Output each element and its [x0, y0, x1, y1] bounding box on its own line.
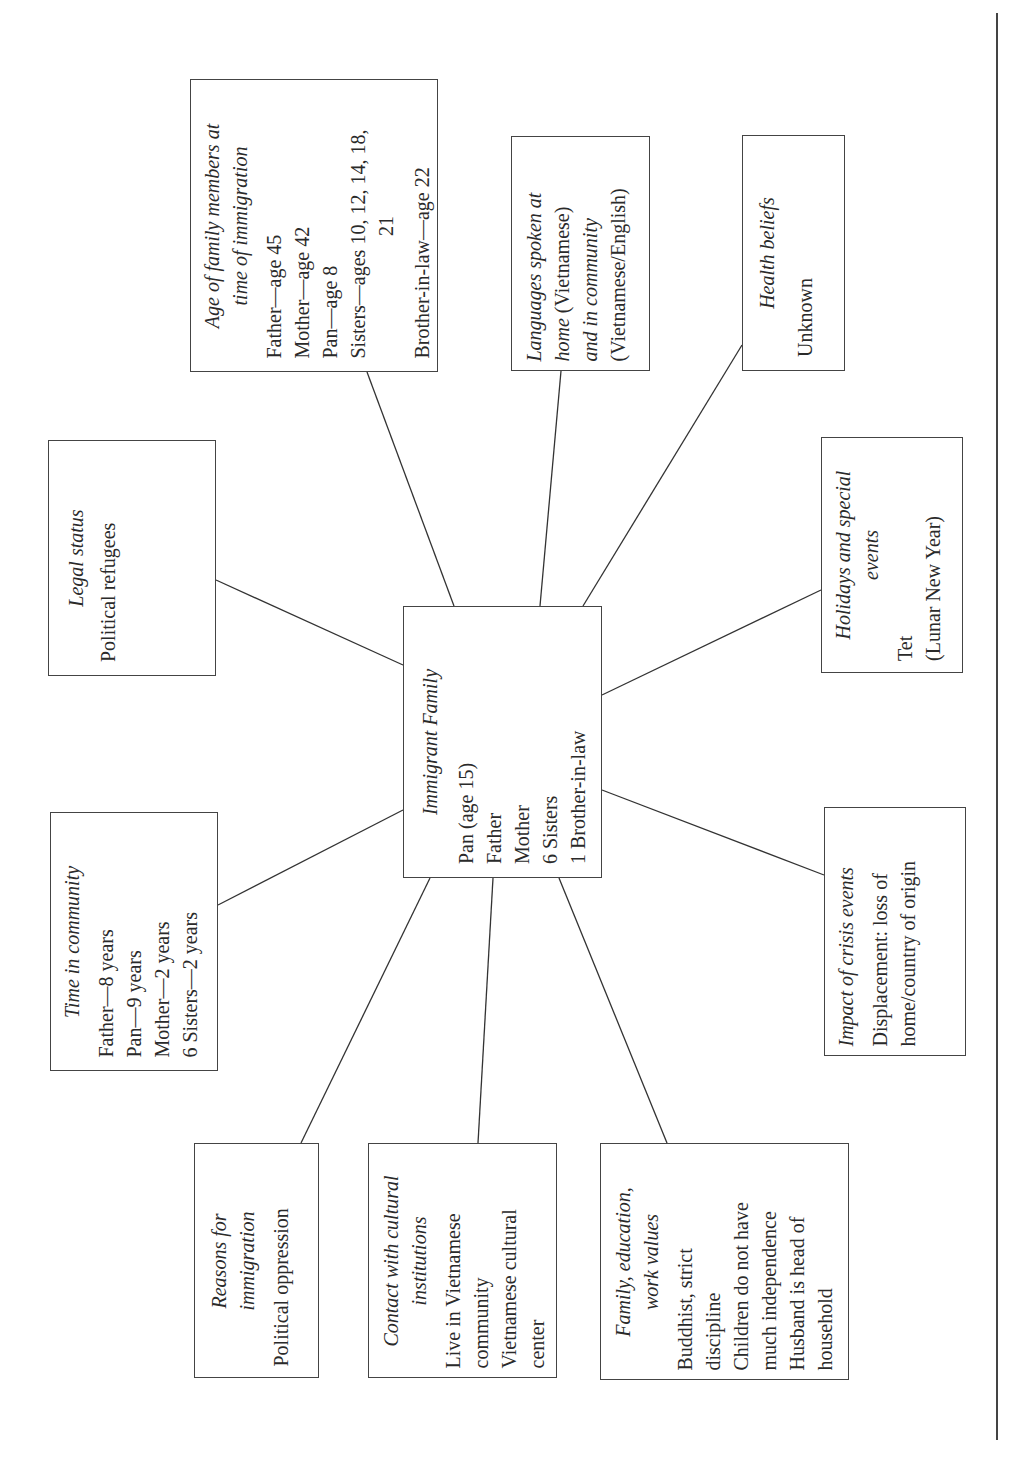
node-line: Husband is head of: [782, 1153, 810, 1370]
node-line: Unknown: [790, 149, 818, 357]
node-line: Father—8 years: [92, 826, 120, 1057]
node-line: home/country of origin: [894, 817, 922, 1046]
node-time-in-community: Time in community Father—8 years Pan—9 y…: [50, 812, 218, 1071]
node-title: Impact of crisis events: [832, 817, 860, 1046]
node-line: Pan—9 years: [120, 826, 148, 1057]
node-title: Holidays and special: [829, 449, 857, 661]
node-line: Buddhist, strict: [670, 1153, 698, 1370]
node-line: discipline: [698, 1153, 726, 1370]
node-title: Family, education,: [608, 1153, 636, 1370]
node-line: Pan—age 8: [316, 93, 344, 358]
center-title: Immigrant Family: [415, 620, 443, 864]
page-edge-rule: [996, 13, 998, 1440]
node-line: (Vietnamese/English): [603, 146, 631, 361]
node-line: 21: [372, 93, 400, 358]
node-title: and in community: [575, 146, 603, 361]
node-family-values: Family, education, work values Buddhist,…: [600, 1143, 849, 1380]
center-line: Mother: [507, 620, 535, 864]
node-title: home: [550, 318, 572, 361]
node-languages: Languages spoken at home (Vietnamese) an…: [511, 136, 650, 371]
node-title: Age of family members at: [198, 93, 226, 358]
center-node-immigrant-family: Immigrant Family Pan (age 15) Father Mot…: [403, 606, 602, 878]
node-health-beliefs: Health beliefs Unknown: [742, 135, 845, 371]
node-line: Children do not have: [726, 1153, 754, 1370]
node-title: Health beliefs: [752, 149, 780, 357]
node-legal-status: Legal status Political refugees: [48, 440, 216, 676]
node-line: Tet: [891, 449, 919, 661]
node-reasons-immigration: Reasons for immigration Political oppres…: [194, 1143, 319, 1378]
node-line: (Lunar New Year): [919, 449, 947, 661]
node-impact-crisis: Impact of crisis events Displacement: lo…: [824, 807, 966, 1056]
node-holidays: Holidays and special events Tet (Lunar N…: [821, 437, 963, 673]
node-title: Contact with cultural: [376, 1153, 404, 1368]
node-line: community: [466, 1153, 494, 1368]
node-title: work values: [636, 1153, 664, 1370]
node-title: institutions: [404, 1153, 432, 1368]
node-age-at-immigration: Age of family members at time of immigra…: [190, 79, 438, 372]
node-line: Mother—2 years: [148, 826, 176, 1057]
center-line: 6 Sisters: [535, 620, 563, 864]
center-line: Father: [479, 620, 507, 864]
node-line: household: [810, 1153, 838, 1370]
node-title: Reasons for: [204, 1155, 232, 1366]
center-line: Pan (age 15): [451, 620, 479, 864]
node-contact-cultural: Contact with cultural institutions Live …: [368, 1143, 557, 1378]
node-title: events: [857, 449, 885, 661]
node-line: center: [522, 1153, 550, 1368]
center-line: 1 Brother-in-law: [563, 620, 591, 864]
node-line: Political refugees: [94, 454, 122, 662]
node-title: immigration: [232, 1155, 260, 1366]
node-line: Brother-in-law—age 22: [408, 93, 436, 358]
node-line: Vietnamese cultural: [494, 1153, 522, 1368]
node-title: Legal status: [62, 454, 90, 662]
node-line: Sisters—ages 10, 12, 14, 18,: [344, 93, 372, 358]
node-line: Father—age 45: [260, 93, 288, 358]
node-line: much independence: [754, 1153, 782, 1370]
node-title: Languages spoken at: [519, 146, 547, 361]
node-line: 6 Sisters—2 years: [176, 826, 204, 1057]
node-line: Mother—age 42: [288, 93, 316, 358]
node-line: (Vietnamese): [550, 206, 572, 318]
node-title: Time in community: [58, 826, 86, 1057]
node-line: Political oppression: [266, 1155, 294, 1366]
node-line: Displacement: loss of: [866, 817, 894, 1046]
node-title: time of immigration: [226, 93, 254, 358]
node-line: Live in Vietnamese: [438, 1153, 466, 1368]
